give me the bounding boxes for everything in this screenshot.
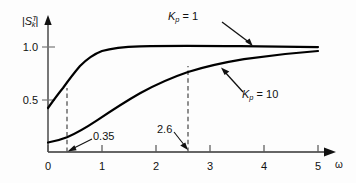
annotation-label-0-35: 0.35 bbox=[93, 130, 114, 142]
series-1-equals: = bbox=[180, 10, 193, 22]
series-2-equals: = bbox=[254, 88, 267, 100]
x-tick-label-5: 5 bbox=[308, 160, 328, 172]
x-tick-label-4: 4 bbox=[254, 160, 274, 172]
x-tick-label-3: 3 bbox=[200, 160, 220, 172]
annotation-label-2-6: 2.6 bbox=[157, 123, 172, 135]
chart-canvas bbox=[0, 0, 356, 183]
series-2-value: 10 bbox=[266, 88, 278, 100]
y-axis bbox=[44, 15, 51, 152]
series-label-kp-1: Kp = 1 bbox=[168, 10, 198, 24]
x-tick-label-0: 0 bbox=[38, 160, 58, 172]
annotation-arrow-kp-1 bbox=[222, 22, 253, 47]
annotation-arrow-kp-10 bbox=[221, 68, 243, 93]
annotation-arrow-2-6 bbox=[174, 132, 188, 150]
y-tick-label-1: 1.0 bbox=[8, 41, 38, 53]
x-tick-label-2: 2 bbox=[146, 160, 166, 172]
y-tick-label-0: 0.5 bbox=[8, 94, 38, 106]
x-axis bbox=[48, 148, 336, 157]
series-label-kp-10: Kp = 10 bbox=[242, 88, 278, 102]
figure-container: |STk| 1.0 0.5 0 1 2 3 4 5 ω Kp = 1 Kp = … bbox=[0, 0, 356, 183]
annotation-arrow-0-35 bbox=[68, 139, 93, 152]
y-axis-label: |STk| bbox=[22, 14, 38, 29]
y-axis-bar-right: | bbox=[36, 15, 39, 27]
x-tick-label-1: 1 bbox=[92, 160, 112, 172]
series-1-value: 1 bbox=[192, 10, 198, 22]
x-axis-label: ω bbox=[335, 159, 343, 170]
